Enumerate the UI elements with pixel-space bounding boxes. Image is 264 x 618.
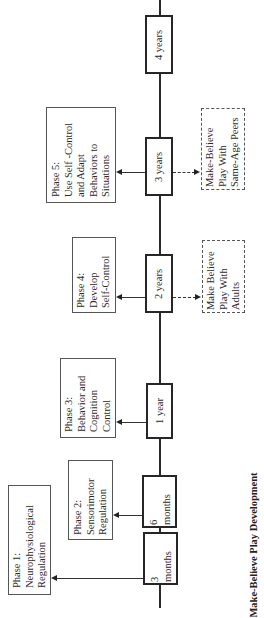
- diagram-title: Make-Believe Play Development: [248, 472, 259, 617]
- play-line: Make-Believe: [204, 111, 217, 187]
- arrowhead-icon: [194, 169, 200, 175]
- connector-play-adults: [173, 297, 196, 298]
- phase-line: Phase 5:: [50, 113, 63, 197]
- connector-phase-3: [122, 422, 146, 423]
- arrowhead-icon: [113, 512, 119, 518]
- phase-3-box: Phase 3: Behavior and Cognition Control: [60, 358, 116, 438]
- phase-line: Behavior and: [76, 364, 89, 432]
- phase-line: and Adapt: [75, 113, 88, 197]
- milestone-4-years: 4 years: [145, 15, 173, 74]
- arrowhead-icon: [116, 294, 122, 300]
- play-line: Adults: [230, 244, 243, 310]
- phase-line: Self-Control: [100, 242, 113, 308]
- milestone-3-months: 3 months: [143, 532, 178, 585]
- milestone-1-year: 1 year: [146, 383, 173, 439]
- phase-line: Use Self -Control: [62, 113, 75, 197]
- phase-line: Phase 4:: [75, 242, 88, 308]
- arrowhead-icon: [51, 575, 57, 581]
- arrowhead-icon: [116, 169, 122, 175]
- phase-4-box: Phase 4: Develop Self-Control: [72, 237, 116, 313]
- phase-line: Phase 3:: [63, 364, 76, 432]
- milestone-label-line: months: [160, 479, 173, 525]
- phase-line: Control: [101, 364, 114, 432]
- connector-phase-2: [119, 515, 142, 516]
- connector-phase-1: [57, 578, 143, 579]
- milestone-label-line: 6: [147, 479, 160, 525]
- arrowhead-icon: [195, 294, 201, 300]
- play-line: Make Believe: [205, 244, 218, 310]
- play-line: Same-Age Peers: [229, 111, 242, 187]
- phase-line: Regulation: [97, 465, 110, 535]
- phase-line: Phase 1:: [11, 492, 24, 588]
- milestone-2-years: 2 years: [145, 254, 173, 313]
- phase-line: Cognition: [88, 364, 101, 432]
- phase-line: Regulation: [36, 492, 49, 588]
- phase-2-box: Phase 2: Sensorimotor Regulation: [68, 460, 113, 540]
- phase-5-box: Phase 5: Use Self -Control and Adapt Beh…: [46, 107, 116, 203]
- phase-line: Behaviors to: [87, 113, 100, 197]
- milestone-label: 3 years: [153, 151, 166, 181]
- phase-line: Neurophysiological: [23, 492, 36, 588]
- milestone-label-line: 3: [148, 536, 161, 582]
- connector-phase-5: [122, 172, 145, 173]
- phase-1-box: Phase 1: Neurophysiological Regulation: [8, 485, 51, 595]
- milestone-3-years: 3 years: [145, 137, 173, 196]
- milestone-6-months: 6 months: [142, 475, 177, 528]
- arrowhead-icon: [116, 419, 122, 425]
- milestone-label: 4 years: [153, 29, 166, 59]
- milestone-label-line: months: [161, 536, 174, 582]
- play-line: Play With: [217, 111, 230, 187]
- play-same-age-peers-box: Make-Believe Play With Same-Age Peers: [201, 108, 245, 190]
- milestone-label: 1 year: [153, 398, 166, 424]
- milestone-label: 2 years: [153, 268, 166, 298]
- play-line: Play With: [217, 244, 230, 310]
- play-adults-box: Make Believe Play With Adults: [202, 240, 245, 313]
- connector-phase-4: [122, 297, 145, 298]
- phase-line: Develop: [88, 242, 101, 308]
- connector-play-peers: [173, 172, 195, 173]
- phase-line: Sensorimotor: [84, 465, 97, 535]
- phase-line: Phase 2:: [72, 465, 85, 535]
- phase-line: Situations: [100, 113, 113, 197]
